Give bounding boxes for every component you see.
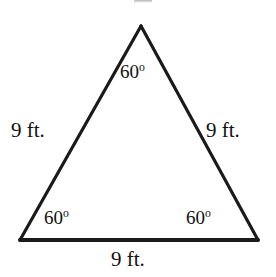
angle-top-value: 60 [120,61,139,82]
angle-label-bottom-right: 60o [186,208,211,227]
degree-symbol-icon: o [63,207,69,220]
angle-label-top: 60o [120,62,145,81]
side-length-label-left: 9 ft. [11,120,45,141]
side-length-label-bottom: 9 ft. [111,249,145,270]
triangle-diagram: 9 ft. 9 ft. 9 ft. 60o 60o 60o [0,0,276,277]
angle-label-bottom-left: 60o [44,208,69,227]
angle-bottom-left-value: 60 [44,207,63,228]
angle-bottom-right-value: 60 [186,207,205,228]
degree-symbol-icon: o [139,61,145,74]
side-length-label-right: 9 ft. [206,120,240,141]
degree-symbol-icon: o [205,207,211,220]
